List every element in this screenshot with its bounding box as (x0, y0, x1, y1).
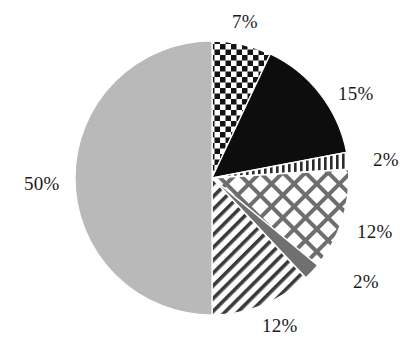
pie-label-7-percent: 7% (232, 12, 258, 32)
pie-slice (75, 41, 212, 315)
pie-chart-figure: 7% 15% 2% 12% 2% 12% 50% (0, 0, 416, 354)
pie-label-2-percent-b: 2% (353, 272, 379, 292)
pie-label-2-percent-a: 2% (373, 150, 399, 170)
pie-label-12-percent-a: 12% (357, 222, 392, 242)
pie-chart-canvas (0, 0, 416, 354)
pie-label-15-percent: 15% (338, 84, 373, 104)
pie-label-50-percent: 50% (24, 174, 59, 194)
pie-label-12-percent-b: 12% (262, 316, 297, 336)
pie-slices (75, 41, 349, 315)
